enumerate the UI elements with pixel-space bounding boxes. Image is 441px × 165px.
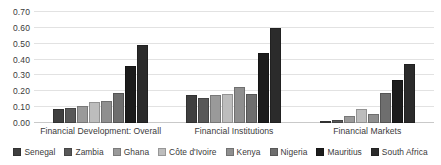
bar	[404, 64, 415, 123]
legend-label: Côte d'Ivoire	[169, 148, 216, 156]
bar	[125, 66, 136, 123]
bar	[344, 116, 355, 123]
bar	[77, 106, 88, 123]
x-axis-category-label: Financial Institutions	[167, 126, 300, 136]
bar-group	[167, 12, 300, 123]
bar	[137, 45, 148, 123]
bar	[320, 121, 331, 123]
bar	[89, 102, 100, 123]
legend-swatch-icon	[270, 148, 278, 156]
legend-item[interactable]: Senegal	[13, 148, 55, 156]
bar-group	[301, 12, 434, 123]
legend-label: Nigeria	[281, 148, 308, 156]
y-axis-tick-label: 0.50	[0, 39, 30, 48]
bar	[356, 109, 367, 123]
legend-swatch-icon	[13, 148, 21, 156]
legend-label: South Africa	[382, 148, 428, 156]
legend-item[interactable]: Nigeria	[270, 148, 308, 156]
legend-label: Zambia	[75, 148, 103, 156]
legend-swatch-icon	[113, 148, 121, 156]
bar	[53, 109, 64, 123]
legend-swatch-icon	[158, 148, 166, 156]
bar	[101, 101, 112, 123]
bar	[380, 93, 391, 123]
legend-label: Ghana	[124, 148, 149, 156]
y-axis-tick-label: 0.00	[0, 119, 30, 128]
legend-label: Senegal	[24, 148, 55, 156]
bar	[270, 28, 281, 123]
bar	[258, 53, 269, 123]
bar	[234, 87, 245, 123]
legend-item[interactable]: Kenya	[226, 148, 261, 156]
legend-swatch-icon	[64, 148, 72, 156]
legend-label: Kenya	[237, 148, 261, 156]
y-axis-tick-label: 0.30	[0, 71, 30, 80]
bar	[186, 95, 197, 123]
legend-item[interactable]: Mauritius	[316, 148, 361, 156]
legend-label: Mauritius	[327, 148, 361, 156]
legend-item[interactable]: Côte d'Ivoire	[158, 148, 216, 156]
bar	[198, 98, 209, 123]
legend: SenegalZambiaGhanaCôte d'IvoireKenyaNige…	[0, 148, 441, 156]
bar	[222, 94, 233, 123]
bar-groups	[34, 12, 434, 123]
bar	[246, 94, 257, 123]
bar	[210, 95, 221, 123]
y-axis-tick-label: 0.70	[0, 8, 30, 17]
legend-swatch-icon	[316, 148, 324, 156]
legend-swatch-icon	[371, 148, 379, 156]
y-axis-tick-label: 0.40	[0, 55, 30, 64]
legend-item[interactable]: South Africa	[371, 148, 428, 156]
y-axis-tick-label: 0.10	[0, 103, 30, 112]
legend-item[interactable]: Zambia	[64, 148, 103, 156]
x-axis-category-label: Financial Markets	[301, 126, 434, 136]
bar	[392, 80, 403, 123]
bar-group	[34, 12, 167, 123]
legend-swatch-icon	[226, 148, 234, 156]
x-axis-category-label: Financial Development: Overall	[34, 126, 167, 136]
bar	[368, 114, 379, 123]
bar-chart: 0.000.100.200.300.400.500.600.70 Financi…	[0, 0, 441, 165]
bar	[332, 120, 343, 123]
x-axis-category-labels: Financial Development: OverallFinancial …	[34, 126, 434, 136]
plot-area	[34, 12, 434, 123]
legend-item[interactable]: Ghana	[113, 148, 149, 156]
y-axis: 0.000.100.200.300.400.500.600.70	[0, 12, 30, 123]
y-axis-tick-label: 0.60	[0, 24, 30, 33]
y-axis-tick-label: 0.20	[0, 87, 30, 96]
bar	[65, 108, 76, 123]
bar	[113, 93, 124, 123]
